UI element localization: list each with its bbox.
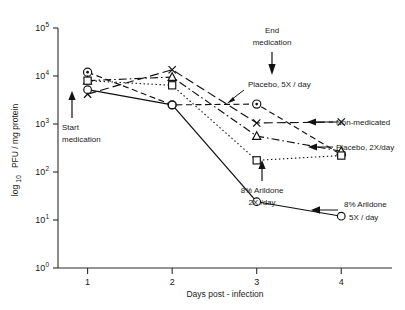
annotation-start-medication: Start medication — [62, 91, 101, 144]
y-axis-title-main: PFU / mg protein — [10, 104, 20, 169]
data-point — [83, 68, 91, 76]
callout-arildone-2x-label-line1: 8% Arildone — [241, 186, 284, 195]
callout-placebo-2x: Placebo, 2X/day — [308, 143, 394, 152]
y-tick-exponent: 0 — [45, 261, 49, 268]
x-tick-label: 3 — [254, 277, 259, 287]
data-point — [168, 73, 176, 81]
data-point — [84, 86, 92, 94]
data-point — [338, 152, 345, 159]
x-axis-ticks: 1234 — [85, 268, 344, 287]
callout-placebo-5x: Placebo, 5X / day — [227, 80, 311, 104]
y-tick-label: 105 — [35, 21, 49, 33]
callout-non-medicated: Non-medicated — [307, 118, 390, 127]
callout-arildone-5x-label-line1: 8% Arildone — [344, 200, 387, 209]
callout-arildone-5x: 8% Arildone 5X / day — [311, 200, 387, 222]
callout-non-medicated-label: Non-medicated — [336, 118, 390, 127]
callout-arildone-5x-arrow-head — [311, 206, 320, 213]
y-axis-title: log 10 PFU / mg protein — [10, 104, 23, 197]
y-tick-base: 10 — [35, 119, 45, 129]
y-tick-exponent: 3 — [45, 117, 49, 124]
data-point — [168, 101, 176, 109]
end-medication-label-line2: medication — [253, 38, 292, 47]
data-point — [169, 82, 176, 89]
y-tick-label: 101 — [35, 213, 49, 225]
x-axis-title-text: Days post - infection — [186, 289, 263, 299]
series-line-path — [88, 90, 342, 217]
series-layer — [83, 66, 345, 220]
y-axis-title-subscript: 10 — [15, 175, 22, 183]
data-point — [253, 132, 261, 140]
y-axis-title-main-spacer — [10, 170, 20, 172]
marker-circle-dot-center — [86, 71, 89, 74]
callout-arildone-2x-label-line2: 2X /day — [248, 198, 275, 207]
start-medication-label-line1: Start — [62, 123, 80, 132]
marker-square-icon — [338, 152, 345, 159]
log-line-chart: 100101102103104105 1234 Days post - infe… — [0, 0, 405, 310]
marker-circle-icon — [337, 212, 345, 220]
y-tick-exponent: 2 — [45, 165, 49, 172]
y-tick-exponent: 4 — [45, 69, 49, 76]
marker-square-icon — [169, 82, 176, 89]
end-medication-arrow-head — [268, 64, 275, 75]
y-tick-label: 100 — [35, 261, 49, 273]
data-point — [84, 77, 91, 84]
callout-placebo-2x-label: Placebo, 2X/day — [336, 143, 394, 152]
end-medication-label-line1: End — [265, 26, 279, 35]
x-tick-label: 2 — [170, 277, 175, 287]
callout-placebo-2x-arrow-head — [308, 144, 317, 151]
start-medication-label-line2: medication — [62, 135, 101, 144]
y-tick-label: 103 — [35, 117, 49, 129]
y-tick-exponent: 5 — [45, 21, 49, 28]
annotation-end-medication: End medication — [253, 26, 292, 75]
callout-arildone-5x-label-line2: 5X / day — [349, 213, 378, 222]
y-tick-base: 10 — [35, 71, 45, 81]
y-axis-title-text: log 10 PFU / mg protein — [10, 104, 23, 197]
series-line-path — [88, 81, 342, 161]
y-tick-base: 10 — [35, 23, 45, 33]
start-medication-arrow-head — [68, 91, 75, 100]
marker-triangle-icon — [253, 132, 261, 140]
callout-arildone-2x: 8% Arildone 2X /day — [241, 160, 284, 207]
y-tick-label: 102 — [35, 165, 49, 177]
x-tick-label: 4 — [339, 277, 344, 287]
callout-non-medicated-arrow-head — [307, 119, 316, 126]
marker-circle-icon — [84, 86, 92, 94]
x-axis-title: Days post - infection — [186, 289, 263, 299]
marker-square-icon — [253, 157, 260, 164]
marker-square-icon — [84, 77, 91, 84]
y-tick-base: 10 — [35, 215, 45, 225]
y-tick-base: 10 — [35, 263, 45, 273]
marker-triangle-icon — [168, 73, 176, 81]
data-point — [253, 100, 261, 108]
marker-circle-dot-center — [255, 103, 258, 106]
y-axis-ticks: 100101102103104105 — [35, 21, 58, 273]
data-point — [337, 212, 345, 220]
figure-container: 100101102103104105 1234 Days post - infe… — [0, 0, 405, 310]
callout-placebo-5x-label: Placebo, 5X / day — [248, 80, 311, 89]
y-tick-label: 104 — [35, 69, 49, 81]
y-tick-base: 10 — [35, 167, 45, 177]
y-axis-title-prefix: log — [10, 185, 20, 197]
marker-circle-icon — [168, 101, 176, 109]
data-point — [253, 157, 260, 164]
y-tick-exponent: 1 — [45, 213, 49, 220]
series-4 — [84, 77, 345, 164]
x-tick-label: 1 — [85, 277, 90, 287]
